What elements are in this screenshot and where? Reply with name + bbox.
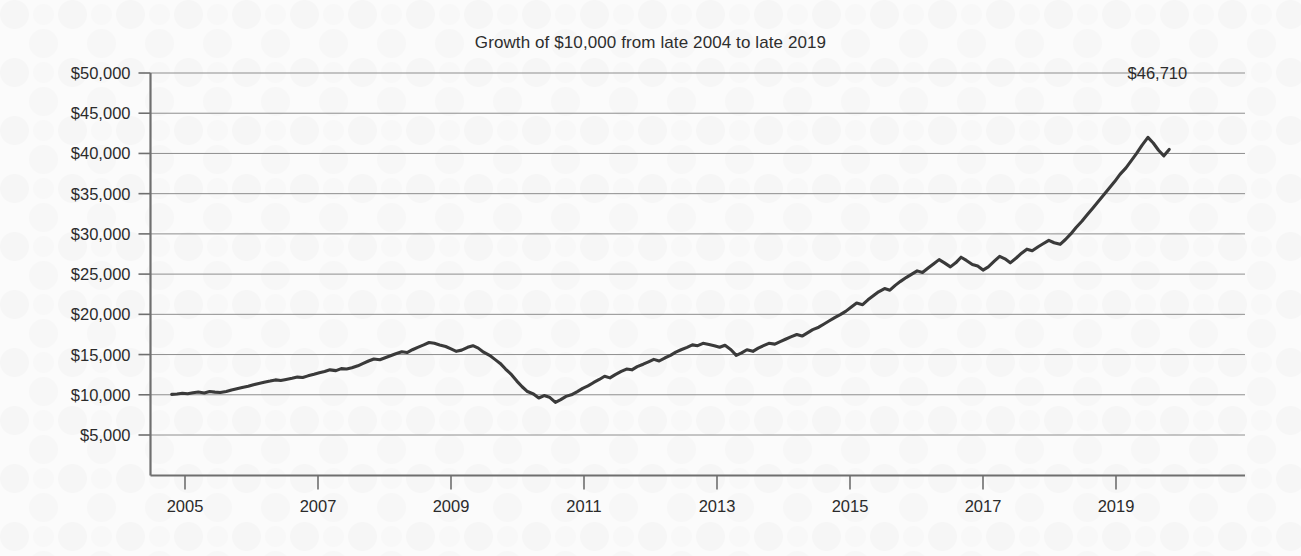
y-axis-tick-label: $20,000 [71, 305, 131, 323]
y-axis-tick-label: $5,000 [80, 426, 130, 444]
y-axis-tick-label: $40,000 [71, 144, 131, 162]
x-axis-tick-label: 2013 [699, 497, 736, 515]
y-axis-tick-label: $10,000 [71, 386, 131, 404]
y-axis-tick-label: $50,000 [71, 64, 131, 82]
x-axis-tick-label: 2015 [832, 497, 869, 515]
data-series-group [172, 137, 1169, 402]
y-axis-tick-label: $30,000 [71, 225, 131, 243]
x-axis-tick-label: 2007 [300, 497, 337, 515]
chart-plot-svg: $5,000$10,000$15,000$20,000$25,000$30,00… [0, 0, 1301, 556]
x-axis-tick-label: 2017 [965, 497, 1002, 515]
y-axis-tick-label: $35,000 [71, 185, 131, 203]
y-axis-labels-group: $5,000$10,000$15,000$20,000$25,000$30,00… [71, 64, 131, 444]
annotations-group: $46,710 [1128, 64, 1188, 82]
x-axis-ticks-group [185, 476, 1116, 490]
x-axis-tick-label: 2009 [433, 497, 470, 515]
x-axis-tick-label: 2019 [1098, 497, 1135, 515]
growth-chart-figure: Growth of $10,000 from late 2004 to late… [0, 0, 1301, 556]
y-axis-tick-label: $25,000 [71, 265, 131, 283]
y-axis-tick-label: $45,000 [71, 104, 131, 122]
x-axis-tick-label: 2011 [566, 497, 601, 515]
end-value-label: $46,710 [1128, 64, 1188, 82]
gridlines-group [151, 73, 1246, 435]
x-axis-labels-group: 20052007200920112013201520172019 [167, 497, 1135, 515]
series-line [172, 137, 1169, 402]
x-axis-tick-label: 2005 [167, 497, 204, 515]
y-axis-tick-label: $15,000 [71, 346, 131, 364]
